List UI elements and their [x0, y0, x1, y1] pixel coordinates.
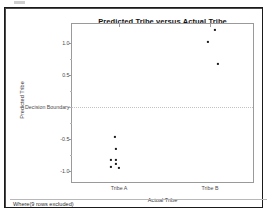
top-edge-artifact: [14, 1, 25, 4]
y-tick-label-decision-boundary: Decision Boundary: [25, 104, 72, 110]
decision-boundary-line: [72, 107, 253, 108]
data-point: [213, 29, 215, 31]
y-tick-label-1: 1.0: [62, 40, 72, 46]
data-point: [114, 163, 116, 165]
y-minor-tick-2: [70, 91, 72, 92]
data-point: [118, 167, 120, 169]
data-point: [109, 166, 111, 168]
y-tick-label-3: -0.5: [60, 136, 72, 142]
data-point: [206, 41, 208, 43]
data-point: [113, 136, 115, 138]
y-minor-tick-1: [70, 59, 72, 60]
y-minor-tick-4: [70, 155, 72, 156]
data-point: [110, 159, 112, 161]
figure-frame: Predicted Tribe versus Actual Tribe Pred…: [4, 7, 263, 208]
x-tick-label-tribe-b: Tribe B: [202, 182, 219, 191]
data-point: [114, 148, 116, 150]
y-tick-label-2: 0.5: [62, 72, 72, 78]
x-tick-mark-tribe-b: [210, 24, 211, 27]
x-axis-title: Actual Tribe: [71, 197, 254, 203]
y-minor-tick-3: [70, 123, 72, 124]
data-point: [217, 63, 219, 65]
plot-panel: 1.0 0.5 Decision Boundary -0.5 -1.0 Trib…: [71, 23, 254, 183]
data-point: [114, 159, 116, 161]
footer-note: Where(9 rows excluded): [13, 201, 74, 207]
x-tick-mark-tribe-a: [119, 24, 120, 27]
footer-divider: [10, 199, 267, 200]
y-axis-title: Predicted Tribe: [19, 62, 25, 138]
y-tick-label-4: -1.0: [60, 168, 72, 174]
x-tick-label-tribe-a: Tribe A: [111, 182, 128, 191]
